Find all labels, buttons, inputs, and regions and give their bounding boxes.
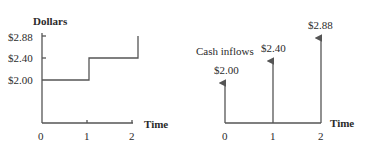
x-axis-title: Time (330, 117, 354, 129)
arrow-label: $2.40 (261, 42, 286, 54)
arrow-label: $2.88 (308, 19, 333, 31)
x-tick-label: 0 (38, 130, 44, 142)
step-chart: Dollars $2.88 $2.40 $2.00 0 1 2 Time (8, 15, 168, 142)
x-tick-label: 1 (84, 130, 90, 142)
step-line (42, 36, 138, 80)
y-axis-title: Dollars (33, 15, 68, 27)
x-tick-label: 1 (270, 130, 276, 142)
x-tick-label: 0 (222, 130, 228, 142)
cash-flow-diagram: Dollars $2.88 $2.40 $2.00 0 1 2 Time Cas… (0, 0, 368, 148)
x-axis-title: Time (144, 118, 168, 130)
cash-inflow-chart: Cash inflows $2.00 $2.40 $2.88 0 1 2 Tim… (196, 19, 354, 142)
chart-title: Cash inflows (196, 45, 254, 57)
x-tick-label: 2 (129, 130, 135, 142)
y-tick-label: $2.40 (8, 52, 33, 64)
y-tick-label: $2.88 (8, 31, 33, 43)
arrow-label: $2.00 (214, 64, 239, 76)
x-tick-label: 2 (318, 130, 324, 142)
y-tick-label: $2.00 (8, 74, 33, 86)
